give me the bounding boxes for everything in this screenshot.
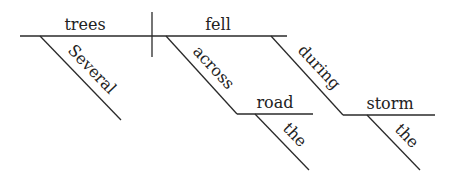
prep1-word: across: [189, 42, 238, 93]
prep1-object-word: road: [256, 93, 293, 112]
prep1-object-modifier-word: the: [279, 119, 311, 151]
subject-word: trees: [64, 15, 105, 34]
prep2-object-modifier-word: the: [391, 120, 423, 152]
prep2-object-word: storm: [366, 94, 413, 113]
prep2-word: during: [294, 41, 345, 93]
verb-word: fell: [205, 15, 231, 34]
sentence-diagram: trees Several fell across road the durin…: [0, 0, 457, 172]
